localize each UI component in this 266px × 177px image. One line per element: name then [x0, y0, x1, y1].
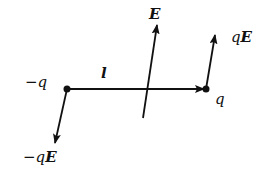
force-neg-qE-E: E: [45, 148, 56, 166]
force-qE-q: q: [231, 28, 241, 46]
neg-charge-dot: [64, 86, 71, 93]
force-neg-qE-q: −q: [23, 148, 45, 166]
force-qE-arrow: [206, 35, 215, 89]
separation-label: l: [101, 66, 107, 81]
pos-charge-label: q: [215, 92, 225, 107]
pos-charge-dot: [203, 86, 210, 93]
force-neg-qE-label: −qE: [23, 150, 57, 165]
force-neg-qE-arrow: [55, 89, 67, 143]
dipole-diagram: −q q l E qE −qE: [0, 0, 266, 177]
force-qE-E: E: [241, 28, 252, 46]
field-label: E: [149, 7, 160, 22]
force-qE-label: qE: [231, 30, 252, 45]
neg-charge-label: −q: [25, 75, 47, 90]
field-E-arrow: [143, 25, 157, 118]
